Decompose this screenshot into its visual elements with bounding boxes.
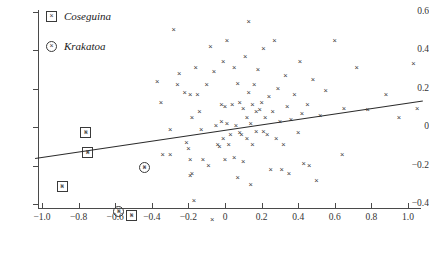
data-point	[282, 72, 289, 79]
data-point	[223, 120, 230, 127]
data-point	[262, 114, 269, 121]
data-point	[203, 81, 210, 88]
x-tick-label: 0.2	[242, 213, 282, 223]
data-point	[222, 103, 229, 110]
data-point	[339, 151, 346, 158]
data-point	[295, 129, 302, 136]
x-axis-spine	[38, 208, 421, 209]
legend: × Coseguina × Krakatoa	[46, 6, 111, 66]
data-point	[159, 151, 166, 158]
x-tick-label: −0.2	[168, 213, 208, 223]
data-point	[254, 66, 261, 73]
data-point	[340, 105, 347, 112]
data-point	[410, 60, 417, 67]
data-point	[196, 108, 203, 115]
data-point	[280, 141, 287, 148]
data-point	[331, 37, 338, 44]
data-point	[234, 174, 241, 181]
data-point	[225, 141, 232, 148]
data-point	[220, 58, 227, 65]
cross-icon: ×	[127, 211, 136, 220]
data-point	[383, 91, 390, 98]
data-point	[395, 114, 402, 121]
data-point	[253, 128, 260, 135]
data-point	[273, 135, 280, 142]
data-point	[205, 162, 212, 169]
legend-item-coseguina: × Coseguina	[46, 6, 111, 26]
data-point	[242, 53, 249, 60]
boxed-cross-icon: ×	[46, 11, 57, 22]
data-point	[309, 76, 316, 83]
data-point	[278, 166, 285, 173]
data-point	[176, 70, 183, 77]
data-point	[174, 81, 181, 88]
data-point	[247, 181, 254, 188]
data-point	[260, 45, 267, 52]
cross-icon: ×	[58, 182, 67, 191]
krakatoa-marker: ×	[139, 162, 150, 173]
data-point	[286, 170, 293, 177]
data-point	[209, 216, 216, 223]
data-point	[189, 114, 196, 121]
data-point	[297, 58, 304, 65]
data-point	[231, 64, 238, 71]
data-point	[291, 91, 298, 98]
data-point	[269, 108, 276, 115]
data-point	[267, 166, 274, 173]
x-tick-label: 0.6	[315, 213, 355, 223]
x-tick-label: 0.8	[351, 213, 391, 223]
coseguina-marker: ×	[82, 147, 93, 158]
data-point	[264, 131, 271, 138]
coseguina-marker: ×	[57, 181, 68, 192]
x-tick-label: −0.4	[132, 213, 172, 223]
data-point	[284, 103, 291, 110]
data-point	[234, 80, 241, 87]
cross-icon: ×	[81, 128, 90, 137]
data-point	[211, 68, 218, 75]
data-point	[304, 101, 311, 108]
data-point	[353, 64, 360, 71]
data-point	[187, 156, 194, 163]
data-point	[223, 37, 230, 44]
data-point	[306, 162, 313, 169]
cross-icon: ×	[114, 207, 123, 216]
krakatoa-marker: ×	[113, 206, 124, 217]
data-point	[167, 126, 174, 133]
x-tick-label: −0.8	[59, 213, 99, 223]
data-point	[154, 78, 161, 85]
scatter-plot-figure: 0.60.40.20−0.2−0.4 −1.0−0.8−0.6−0.4−0.20…	[0, 0, 429, 254]
data-point	[222, 156, 229, 163]
data-point	[192, 64, 199, 71]
data-point	[167, 151, 174, 158]
data-point	[258, 99, 265, 106]
data-point	[240, 158, 247, 165]
data-point	[245, 18, 252, 25]
data-point	[322, 87, 329, 94]
data-point	[265, 93, 272, 100]
data-point	[249, 141, 256, 148]
data-point	[187, 91, 194, 98]
data-point	[207, 43, 214, 50]
data-point	[216, 143, 223, 150]
data-point	[414, 105, 421, 112]
legend-item-label: Krakatoa	[64, 40, 106, 52]
data-point	[229, 101, 236, 108]
cross-icon: ×	[140, 163, 149, 172]
data-point	[227, 131, 234, 138]
coseguina-marker: ×	[80, 127, 91, 138]
data-point	[298, 110, 305, 117]
x-tick-label: 0.4	[278, 213, 318, 223]
data-point	[245, 89, 252, 96]
data-point	[189, 170, 196, 177]
data-point	[275, 85, 282, 92]
legend-item-krakatoa: × Krakatoa	[46, 36, 111, 56]
x-tick-label: −1.0	[22, 213, 62, 223]
data-point	[185, 145, 192, 152]
data-point	[231, 154, 238, 161]
data-point	[194, 91, 201, 98]
regression-line	[35, 100, 423, 159]
data-point	[190, 197, 197, 204]
data-point	[251, 81, 258, 88]
data-point	[240, 105, 247, 112]
coseguina-marker: ×	[126, 210, 137, 221]
